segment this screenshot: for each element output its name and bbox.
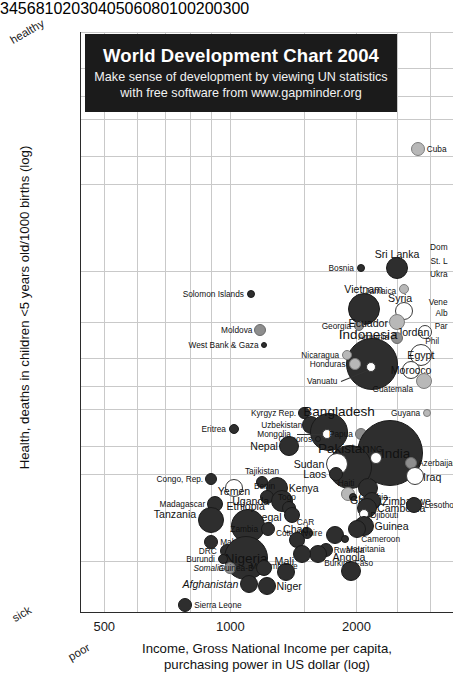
point-label-eritrea: Eritrea <box>202 424 226 433</box>
y-tick-label: 300 <box>223 0 250 17</box>
point-label-vietnam: Vietnam <box>344 284 383 293</box>
point-label-ukra: Ukra <box>430 270 448 279</box>
bubble-moldova[interactable] <box>254 324 266 336</box>
gridline-vertical <box>165 32 166 612</box>
chart-subtitle-line1: Make sense of development by viewing UN … <box>94 70 387 86</box>
point-label-madagascar: Madagascar <box>160 499 206 508</box>
leader-line-mongolia <box>297 434 322 435</box>
point-label-benin: Benin <box>254 481 275 490</box>
point-label-sierra-leone: Sierra Leone <box>194 600 242 609</box>
point-label-syria: Syria <box>388 294 412 303</box>
bubble-eritrea[interactable] <box>229 424 239 434</box>
y-tick-label: 8 <box>36 0 45 17</box>
point-label-afghanistan: Afghanistan <box>182 579 238 588</box>
point-label-india: India <box>381 449 410 458</box>
point-label-nepal: Nepal <box>250 441 278 450</box>
point-label-azerbaijan: Azerbaijan <box>418 459 453 468</box>
y-tick-label: 3 <box>0 0 9 17</box>
point-label-par: Par <box>435 322 448 331</box>
point-label-togo: Togo <box>278 492 296 501</box>
y-tick-label: 80 <box>151 0 169 17</box>
bubble-sri-lanka[interactable] <box>386 257 408 279</box>
point-label-bangladesh: Bangladesh <box>303 407 374 416</box>
point-label-angola: Angola <box>332 553 365 562</box>
point-label-papua: Papua <box>329 429 353 438</box>
point-label-alb: Alb <box>436 309 448 318</box>
point-label-st-l: St. L <box>430 257 447 266</box>
point-label-djibouti: Djibouti <box>371 511 399 520</box>
y-tick-label: 60 <box>134 0 152 17</box>
bubble-niger[interactable] <box>258 577 276 595</box>
point-label-zambia: Zambia <box>230 524 258 533</box>
bubble-afghanistan[interactable] <box>240 575 258 593</box>
bubble-tanzania[interactable] <box>198 507 224 533</box>
y-tick-label: 30 <box>80 0 98 17</box>
point-label-moldova: Moldova <box>221 326 252 335</box>
point-label-guyana: Guyana <box>391 409 420 418</box>
bubble-congo-rep[interactable] <box>205 473 217 485</box>
bubble-bosnia[interactable] <box>357 264 365 272</box>
point-label-ethiopia: Ethiopia <box>227 502 265 511</box>
point-label-guinea: Guinea <box>374 522 408 531</box>
point-label-haiti: Haiti <box>338 479 355 488</box>
bubble-nepal[interactable] <box>279 436 299 456</box>
y-tick-label: 50 <box>116 0 134 17</box>
point-label-guatemala: Guatemala <box>372 385 413 394</box>
y-tick-label: 6 <box>27 0 36 17</box>
chart-canvas: healthy sick poor Health, deaths in chil… <box>0 0 459 691</box>
point-label-solomon-islands: Solomon Islands <box>183 289 244 298</box>
bubble-west-bank-gaza[interactable] <box>261 342 267 348</box>
point-label-chad: Chad <box>283 525 308 534</box>
bubble-guinea-b[interactable] <box>256 560 272 576</box>
point-label-sri-lanka: Sri Lanka <box>375 249 420 258</box>
point-label-cuba: Cuba <box>427 145 447 154</box>
chart-title: World Development Chart 2004 <box>103 45 379 67</box>
bubble-honduras[interactable] <box>349 358 361 370</box>
point-label-pakistan: Pakistan <box>318 444 370 453</box>
y-tick-label: 40 <box>98 0 116 17</box>
y-tick-label: 20 <box>62 0 80 17</box>
y-tick-label: 5 <box>18 0 27 17</box>
point-label-vene: Vene <box>429 297 448 306</box>
point-label-honduras: Honduras <box>310 360 346 369</box>
point-label-laos: Laos <box>303 469 326 478</box>
x-tick-label: 500 <box>93 619 115 634</box>
y-tick-label: 10 <box>45 0 63 17</box>
point-label-tajikistan: Tajikistan <box>245 467 279 476</box>
bubble-iraq[interactable] <box>406 467 424 485</box>
point-label-west-bank-gaza: West Bank & Gaza <box>189 340 259 349</box>
point-label-iraq: Iraq <box>423 473 441 482</box>
x-tick-label: 2000 <box>342 619 371 634</box>
point-label-egypt: Egypt <box>407 351 434 360</box>
bubble-cuba[interactable] <box>411 142 425 156</box>
bubble-solomon-islands[interactable] <box>247 290 255 298</box>
point-label-kyrgyz-rep: Kyrgyz Rep. <box>251 409 296 418</box>
point-label-vanuatu: Vanuatu <box>307 377 337 386</box>
y-tick-label: 200 <box>196 0 223 17</box>
y-tick-label: 100 <box>169 0 196 17</box>
point-label-dom: Dom <box>430 242 448 251</box>
gridline-vertical <box>137 32 138 612</box>
gridline-vertical <box>104 32 105 612</box>
gridline-vertical <box>430 32 431 612</box>
bubble-angola[interactable] <box>341 561 361 581</box>
point-label-indonesia: Indonesia <box>339 330 398 339</box>
point-label-ng: NG <box>370 444 382 453</box>
y-axis-ticks: 3456810203040506080100200300 <box>0 0 78 691</box>
point-label-niger: Niger <box>277 582 302 591</box>
bubble-mauritania[interactable] <box>341 535 349 543</box>
point-label-cameroon: Cameroon <box>361 534 400 543</box>
x-axis-title-line1: Income, Gross National Income per capita… <box>81 641 453 657</box>
bubble-zambia[interactable] <box>261 522 275 536</box>
point-label-congo-rep: Congo, Rep. <box>157 474 204 483</box>
point-label-guinea-b: Guinea-B <box>218 564 253 573</box>
point-label-lesotho: Lesotho <box>424 500 453 509</box>
point-label-bosnia: Bosnia <box>329 263 354 272</box>
plot-area: CubaDomSt. LUkraSri LankaBosniaJamaicaVe… <box>81 32 453 612</box>
y-tick-label: 4 <box>9 0 18 17</box>
chart-subtitle-line2: with free software from www.gapminder.or… <box>120 86 361 102</box>
x-tick-label: 1000 <box>216 619 245 634</box>
point-label-tanzania: Tanzania <box>154 510 196 519</box>
bubble-ng[interactable] <box>370 452 382 464</box>
bubble-sierra-leone[interactable] <box>178 598 192 612</box>
